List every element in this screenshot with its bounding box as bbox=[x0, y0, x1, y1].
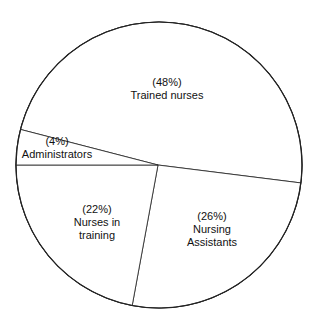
slice-percent: (48%) bbox=[152, 76, 181, 88]
pie-chart: (48%)Trained nurses(26%)NursingAssistant… bbox=[0, 0, 318, 331]
slice-percent: (4%) bbox=[45, 135, 68, 147]
slice-percent: (22%) bbox=[82, 203, 111, 215]
slice-percent: (26%) bbox=[197, 210, 226, 222]
slice-name: Administrators bbox=[22, 148, 93, 160]
slice-name: Assistants bbox=[187, 236, 238, 248]
slice-name: Trained nurses bbox=[131, 89, 204, 101]
slice-name: Nurses in bbox=[74, 216, 120, 228]
slice-name: training bbox=[79, 229, 115, 241]
slice-name: Nursing bbox=[193, 223, 231, 235]
